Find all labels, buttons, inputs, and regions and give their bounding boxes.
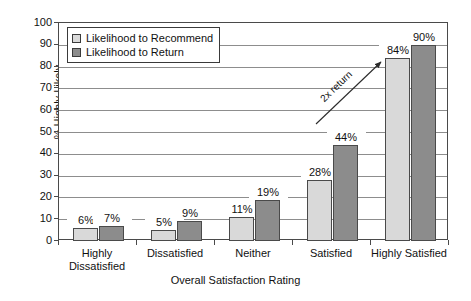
- x-tick-mark: [58, 240, 59, 245]
- y-tick-label: 100: [18, 17, 52, 28]
- y-tick-label: 10: [18, 213, 52, 224]
- chart-legend: Likelihood to Recommend Likelihood to Re…: [67, 27, 220, 63]
- x-tick-mark: [448, 240, 449, 245]
- legend-swatch-return-icon: [72, 48, 81, 57]
- legend-label-return: Likelihood to Return: [86, 47, 184, 58]
- bar: [99, 226, 124, 241]
- legend-swatch-recommend-icon: [72, 34, 81, 43]
- bar-value-label: 7%: [93, 213, 132, 224]
- bar: [333, 145, 358, 241]
- y-tick-label: 0: [18, 235, 52, 246]
- satisfaction-bar-chart: % Highly Likely 0102030405060708090100 6…: [0, 0, 471, 301]
- y-tick-label: 80: [18, 60, 52, 71]
- x-tick-mark: [214, 240, 215, 245]
- x-axis-title: Overall Satisfaction Rating: [0, 274, 471, 286]
- y-tick-label: 50: [18, 126, 52, 137]
- y-tick-label: 90: [18, 38, 52, 49]
- y-tick-label: 60: [18, 104, 52, 115]
- legend-item-return: Likelihood to Return: [72, 45, 213, 59]
- y-tick-label: 20: [18, 191, 52, 202]
- bar-value-label: 19%: [249, 187, 288, 198]
- bar-value-label: 9%: [171, 208, 210, 219]
- y-tick-label: 70: [18, 82, 52, 93]
- x-tick-mark: [370, 240, 371, 245]
- bar: [177, 221, 202, 241]
- bar: [73, 228, 98, 241]
- y-tick-label: 40: [18, 147, 52, 158]
- legend-label-recommend: Likelihood to Recommend: [86, 33, 213, 44]
- bar-value-label: 44%: [327, 132, 366, 143]
- legend-item-recommend: Likelihood to Recommend: [72, 31, 213, 45]
- bar: [385, 58, 410, 241]
- bar: [307, 180, 332, 241]
- x-tick-mark: [136, 240, 137, 245]
- bar-value-label: 90%: [405, 32, 444, 43]
- x-category-label: Highly Satisfied: [358, 247, 460, 260]
- bar: [151, 230, 176, 241]
- bar: [229, 217, 254, 241]
- bar: [411, 45, 436, 241]
- y-tick-label: 30: [18, 169, 52, 180]
- bar: [255, 200, 280, 241]
- x-tick-mark: [292, 240, 293, 245]
